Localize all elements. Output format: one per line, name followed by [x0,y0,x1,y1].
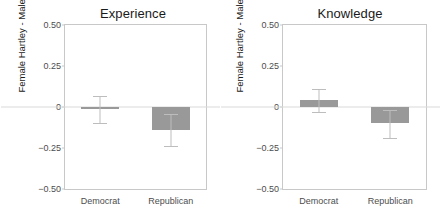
plot-area: 0.500.250−0.25−0.50DemocratRepublican [64,24,207,190]
error-bar-line [170,114,171,147]
y-tick-mark [280,148,283,149]
y-tick-mark [62,66,65,67]
y-tick-label: −0.25 [38,143,61,153]
y-tick-mark [62,189,65,190]
error-bar-cap [312,112,326,113]
error-bar-cap [383,110,397,111]
error-bar-line [390,110,391,138]
x-tick-label-democrat: Democrat [81,196,120,206]
y-tick-label: −0.50 [256,184,279,194]
error-bar-line [100,96,101,124]
panel-title: Experience [0,6,220,21]
error-bar-cap [164,114,178,115]
x-tick-label-republican: Republican [148,196,193,206]
error-bar-cap [93,96,107,97]
y-tick-mark [280,189,283,190]
x-tick-label-republican: Republican [368,196,413,206]
x-tick-label-democrat: Democrat [299,196,338,206]
error-bar-cap [93,123,107,124]
y-tick-label: 0.25 [261,61,279,71]
error-bar-cap [383,138,397,139]
y-tick-label: −0.25 [256,143,279,153]
error-bar-cap [312,89,326,90]
y-tick-label: 0.50 [261,20,279,30]
y-tick-mark [280,25,283,26]
error-bar-cap [164,146,178,147]
y-axis-label: Female Hartley - Male Hartley [16,0,27,113]
y-tick-label: 0.50 [43,20,61,30]
plot-area: 0.500.250−0.25−0.50DemocratRepublican [282,24,427,190]
y-tick-mark [62,25,65,26]
faceted-bar-chart: Experience Female Hartley - Male Hartley… [0,0,440,218]
y-tick-label: −0.50 [38,184,61,194]
y-tick-mark [280,66,283,67]
y-tick-label: 0.25 [43,61,61,71]
y-tick-mark [62,148,65,149]
panel-title: Knowledge [220,6,440,21]
panel-experience: Experience Female Hartley - Male Hartley… [0,0,220,218]
error-bar-line [318,89,319,112]
y-axis-label: Female Hartley - Male Hartley [234,0,245,113]
panel-knowledge: Knowledge Female Hartley - Male Hartley … [220,0,440,218]
